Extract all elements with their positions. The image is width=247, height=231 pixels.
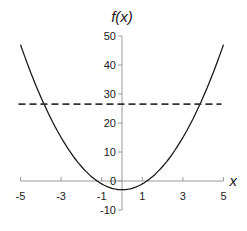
y-tick-label: 10 [104, 146, 116, 158]
y-tick-label: -10 [100, 204, 116, 216]
y-tick-label: 30 [104, 88, 116, 100]
x-tick-label: -5 [16, 190, 26, 202]
y-axis-title: f(x) [111, 8, 133, 25]
x-axis-title: x [229, 172, 238, 189]
chart: 50403020100-10-5-3-1135f(x)x [0, 0, 247, 231]
y-tick-label: 0 [110, 175, 116, 187]
x-tick-label: 5 [220, 190, 226, 202]
x-tick-label: -1 [97, 190, 107, 202]
x-tick-label: 1 [139, 190, 145, 202]
y-tick-label: 40 [104, 59, 116, 71]
y-tick-label: 20 [104, 117, 116, 129]
x-tick-label: -3 [56, 190, 66, 202]
y-tick-label: 50 [104, 30, 116, 42]
x-tick-label: 3 [180, 190, 186, 202]
